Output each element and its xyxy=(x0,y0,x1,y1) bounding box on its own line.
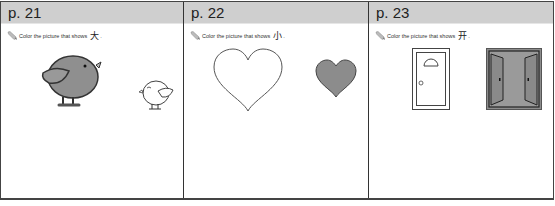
instruction-text: Color the picture that shows xyxy=(387,33,455,39)
instruction-text: Color the picture that shows xyxy=(202,33,270,39)
instruction: Color the picture that shows 小 . xyxy=(190,29,285,42)
small-heart-picture[interactable] xyxy=(315,59,357,99)
page-label: p. 21 xyxy=(8,4,41,21)
instruction: Color the picture that shows 开 . xyxy=(375,29,470,42)
pencil-icon xyxy=(375,31,386,40)
page-label: p. 23 xyxy=(376,4,409,21)
big-heart-picture[interactable] xyxy=(212,47,284,113)
instruction: Color the picture that shows 大 . xyxy=(7,29,102,42)
open-door-picture[interactable] xyxy=(486,48,542,110)
page-panel-21: p. 21 Color the picture that shows 大 . xyxy=(1,2,183,198)
instruction-text: Color the picture that shows xyxy=(19,33,87,39)
pencil-icon xyxy=(190,31,201,40)
worksheet-strip: p. 21 Color the picture that shows 大 . xyxy=(0,1,554,200)
small-bird-picture[interactable] xyxy=(138,76,176,112)
big-bird-picture[interactable] xyxy=(37,49,103,109)
target-character: 开 xyxy=(458,29,467,42)
page-panel-23: p. 23 Color the picture that shows 开 . xyxy=(368,2,553,198)
page-header: p. 21 xyxy=(1,2,183,24)
closed-door-picture[interactable] xyxy=(412,48,450,110)
target-character: 大 xyxy=(90,29,99,42)
page-panel-22: p. 22 Color the picture that shows 小 . xyxy=(183,2,368,198)
page-label: p. 22 xyxy=(191,4,224,21)
page-header: p. 22 xyxy=(184,2,368,24)
pencil-icon xyxy=(7,31,18,40)
target-character: 小 xyxy=(273,29,282,42)
page-header: p. 23 xyxy=(369,2,553,24)
